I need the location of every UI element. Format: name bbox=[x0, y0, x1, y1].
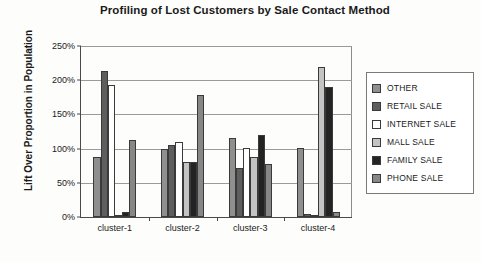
legend-item[interactable]: PHONE SALE bbox=[372, 169, 468, 187]
legend-item[interactable]: RETAIL SALE bbox=[372, 97, 468, 115]
bar[interactable] bbox=[325, 87, 332, 217]
legend-item-label: FAMILY SALE bbox=[387, 155, 443, 165]
bar[interactable] bbox=[93, 157, 100, 217]
x-tick-label: cluster-1 bbox=[81, 223, 149, 233]
legend-item-label: MALL SALE bbox=[387, 137, 435, 147]
bar[interactable] bbox=[311, 215, 318, 217]
bar[interactable] bbox=[318, 67, 325, 217]
plot-area: 0%50%100%150%200%250% cluster-1cluster-2… bbox=[80, 46, 352, 218]
bar[interactable] bbox=[175, 142, 182, 217]
bar[interactable] bbox=[197, 95, 204, 217]
bar[interactable] bbox=[190, 162, 197, 217]
bar[interactable] bbox=[122, 212, 129, 217]
bar[interactable] bbox=[115, 215, 122, 217]
y-tick-label: 50% bbox=[57, 178, 75, 188]
bar-group: cluster-3 bbox=[217, 46, 285, 217]
bar[interactable] bbox=[161, 149, 168, 217]
legend-item-label: OTHER bbox=[387, 83, 418, 93]
legend-item[interactable]: MALL SALE bbox=[372, 133, 468, 151]
legend-swatch-icon bbox=[372, 102, 381, 111]
bar[interactable] bbox=[333, 212, 340, 217]
bar-group: cluster-1 bbox=[81, 46, 149, 217]
bar[interactable] bbox=[236, 168, 243, 217]
y-axis-title: Lift Over Proportion in Population bbox=[23, 21, 34, 201]
bar[interactable] bbox=[183, 162, 190, 217]
y-tick-label: 100% bbox=[52, 144, 75, 154]
bar[interactable] bbox=[129, 140, 136, 217]
bar[interactable] bbox=[265, 164, 272, 217]
bar[interactable] bbox=[304, 214, 311, 217]
chart-legend: OTHERRETAIL SALEINTERNET SALEMALL SALEFA… bbox=[366, 72, 474, 194]
legend-swatch-icon bbox=[372, 120, 381, 129]
bar[interactable] bbox=[243, 148, 250, 217]
legend-item[interactable]: INTERNET SALE bbox=[372, 115, 468, 133]
x-tick-label: cluster-3 bbox=[217, 223, 285, 233]
legend-swatch-icon bbox=[372, 174, 381, 183]
bar[interactable] bbox=[229, 138, 236, 217]
legend-item-label: PHONE SALE bbox=[387, 173, 443, 183]
legend-swatch-icon bbox=[372, 138, 381, 147]
x-tick-label: cluster-4 bbox=[284, 223, 352, 233]
y-tick-label: 0% bbox=[62, 212, 75, 222]
legend-swatch-icon bbox=[372, 84, 381, 93]
legend-item[interactable]: OTHER bbox=[372, 79, 468, 97]
chart-title: Profiling of Lost Customers by Sale Cont… bbox=[95, 4, 395, 17]
bar[interactable] bbox=[168, 145, 175, 217]
bar-group: cluster-2 bbox=[149, 46, 217, 217]
legend-item-label: INTERNET SALE bbox=[387, 119, 456, 129]
bar[interactable] bbox=[108, 85, 115, 217]
bar-group: cluster-4 bbox=[284, 46, 352, 217]
bar[interactable] bbox=[297, 148, 304, 217]
bar[interactable] bbox=[258, 135, 265, 217]
bar[interactable] bbox=[250, 157, 257, 217]
chart-container: Profiling of Lost Customers by Sale Cont… bbox=[0, 0, 481, 262]
x-tick-label: cluster-2 bbox=[149, 223, 217, 233]
y-tick-label: 200% bbox=[52, 75, 75, 85]
legend-item-label: RETAIL SALE bbox=[387, 101, 442, 111]
bar[interactable] bbox=[101, 71, 108, 217]
legend-swatch-icon bbox=[372, 156, 381, 165]
y-tick-label: 250% bbox=[52, 41, 75, 51]
bar-groups: cluster-1cluster-2cluster-3cluster-4 bbox=[81, 46, 352, 217]
legend-item[interactable]: FAMILY SALE bbox=[372, 151, 468, 169]
y-tick-label: 150% bbox=[52, 109, 75, 119]
